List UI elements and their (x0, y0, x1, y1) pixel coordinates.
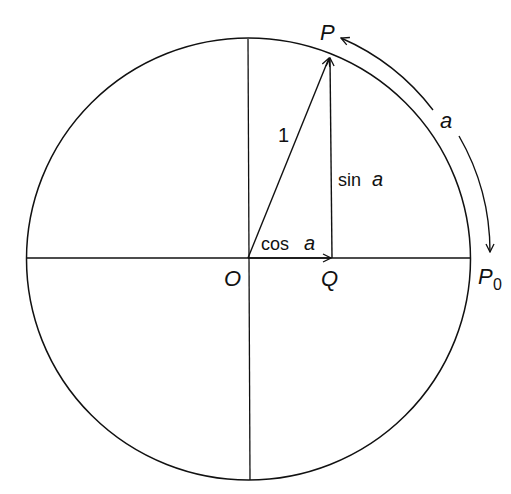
radius-vector-op (248, 58, 329, 258)
label-arc-a: a (440, 108, 452, 133)
label-sin-a: a (372, 168, 383, 190)
unit-circle-diagram: P a 1 sin a cos a O Q P 0 (0, 0, 511, 494)
label-o: O (224, 266, 241, 291)
label-p: P (320, 20, 335, 45)
sine-vector-qp (330, 58, 332, 258)
label-p0: P (478, 264, 493, 289)
label-cos: cos (261, 234, 289, 254)
label-p0-subscript: 0 (493, 276, 502, 293)
arc-arrow-upper (341, 38, 433, 110)
arc-arrow-lower (459, 136, 490, 252)
label-sin: sin (338, 170, 361, 190)
label-cos-a: a (304, 232, 315, 254)
y-axis (248, 39, 250, 480)
label-q: Q (321, 266, 338, 291)
label-radius: 1 (278, 124, 289, 146)
